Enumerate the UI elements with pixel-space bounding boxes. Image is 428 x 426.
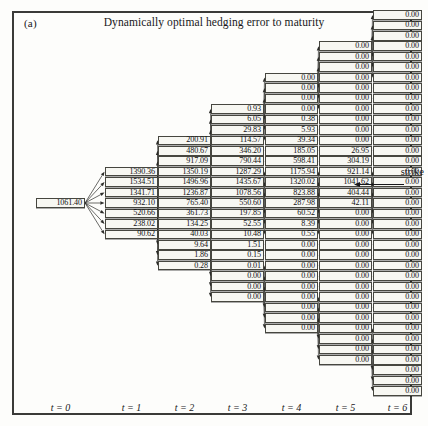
lattice-node: 0.00	[319, 52, 372, 62]
lattice-node: 0.00	[265, 282, 318, 292]
lattice-node: 0.00	[373, 31, 422, 41]
lattice-node: 1287.29	[211, 167, 264, 177]
lattice-node: 0.00	[265, 83, 318, 93]
lattice-node: 9.64	[158, 240, 211, 250]
time-axis-label-0: t = 0	[51, 402, 71, 413]
lattice-node: 0.00	[319, 355, 372, 365]
lattice-node: 0.00	[373, 355, 422, 365]
lattice-node: 0.00	[373, 324, 422, 334]
lattice-node: 1061.40	[36, 198, 85, 208]
lattice-node: 1.51	[211, 240, 264, 250]
lattice-node: 0.00	[319, 240, 372, 250]
lattice-node: 0.00	[373, 198, 422, 208]
lattice-node: 480.67	[158, 146, 211, 156]
lattice-node: 0.00	[265, 250, 318, 260]
lattice-node: 0.00	[319, 115, 372, 125]
lattice-node: 0.00	[319, 136, 372, 146]
lattice-node: 1078.56	[211, 188, 264, 198]
time-axis-label-2: t = 2	[175, 402, 195, 413]
lattice-node: 1.86	[158, 250, 211, 260]
time-axis-label-1: t = 1	[122, 402, 142, 413]
lattice-node: 0.00	[373, 345, 422, 355]
time-axis-label-3: t = 3	[228, 402, 248, 413]
lattice-node: 0.00	[319, 271, 372, 281]
lattice-node: 0.00	[373, 115, 422, 125]
lattice-node: 42.11	[319, 198, 372, 208]
lattice-node: 0.00	[373, 313, 422, 323]
lattice-node: 52.55	[211, 219, 264, 229]
lattice-node: 0.00	[373, 94, 422, 104]
lattice-node: 0.00	[319, 83, 372, 93]
lattice-node: 1341.71	[105, 188, 158, 198]
lattice-node: 0.00	[319, 303, 372, 313]
lattice-node: 0.00	[373, 21, 422, 31]
lattice-node: 598.41	[265, 156, 318, 166]
lattice-node: 0.00	[373, 41, 422, 51]
lattice-node: 1496.96	[158, 177, 211, 187]
lattice-node: 0.00	[319, 324, 372, 334]
lattice-node: 0.00	[373, 73, 422, 83]
lattice-node: 0.00	[319, 94, 372, 104]
time-axis-label-6: t = 6	[388, 402, 408, 413]
lattice-node: 0.00	[319, 62, 372, 72]
lattice-node: 0.00	[265, 73, 318, 83]
lattice-node: 304.19	[319, 156, 372, 166]
lattice-node: 1320.02	[265, 177, 318, 187]
lattice-node: 1390.36	[105, 167, 158, 177]
lattice-node: 29.83	[211, 125, 264, 135]
lattice-node: 197.85	[211, 209, 264, 219]
lattice-node: 0.01	[211, 261, 264, 271]
lattice-node: 0.00	[373, 334, 422, 344]
lattice-node: 0.00	[319, 250, 372, 260]
lattice-node: 0.15	[211, 250, 264, 260]
lattice-node: 0.00	[373, 282, 422, 292]
lattice-node: 0.00	[373, 250, 422, 260]
lattice-node: 0.00	[373, 365, 422, 375]
lattice-node: 0.00	[373, 10, 422, 20]
lattice-node: 0.00	[373, 125, 422, 135]
lattice-node: 520.66	[105, 209, 158, 219]
lattice-node: 0.00	[319, 345, 372, 355]
lattice-node: 0.00	[373, 303, 422, 313]
lattice-node: 0.55	[265, 230, 318, 240]
lattice-node: 0.00	[319, 41, 372, 51]
lattice-node: 917.09	[158, 156, 211, 166]
lattice-node: 0.00	[373, 219, 422, 229]
lattice-node: 0.00	[265, 240, 318, 250]
lattice-node: 114.57	[211, 136, 264, 146]
lattice-node: 1175.94	[265, 167, 318, 177]
lattice-node: 26.95	[319, 146, 372, 156]
lattice-node: 0.00	[319, 334, 372, 344]
lattice-node: 932.10	[105, 198, 158, 208]
lattice-node: 0.00	[211, 292, 264, 302]
lattice-node: 200.91	[158, 136, 211, 146]
lattice-node: 0.00	[373, 136, 422, 146]
lattice-node: 0.00	[319, 125, 372, 135]
lattice-node: 0.00	[373, 209, 422, 219]
lattice-node: 1534.51	[105, 177, 158, 187]
lattice-node: 287.98	[265, 198, 318, 208]
lattice-node: 0.00	[265, 292, 318, 302]
lattice-node: 0.00	[319, 73, 372, 83]
lattice-node: 0.00	[373, 230, 422, 240]
lattice-node: 0.00	[319, 292, 372, 302]
lattice-node: 0.00	[373, 240, 422, 250]
lattice-node: 0.00	[319, 230, 372, 240]
lattice-node: 0.00	[265, 271, 318, 281]
lattice-node: 0.00	[373, 104, 422, 114]
lattice-node: 0.00	[265, 94, 318, 104]
lattice-node: 0.00	[319, 261, 372, 271]
lattice-node: 765.40	[158, 198, 211, 208]
lattice-node: 0.00	[373, 376, 422, 386]
time-axis-label-4: t = 4	[282, 402, 302, 413]
left-arrow-icon	[354, 180, 404, 189]
lattice-node: 0.00	[373, 386, 422, 396]
lattice-node: 550.60	[211, 198, 264, 208]
lattice-node: 0.00	[319, 219, 372, 229]
figure-panel: (a) Dynamically optimal hedging error to…	[0, 0, 428, 426]
lattice-node: 0.00	[373, 52, 422, 62]
binomial-lattice: 1061.401390.361534.511341.71932.10520.66…	[12, 11, 412, 415]
lattice-node: 0.93	[211, 104, 264, 114]
lattice-node: 185.05	[265, 146, 318, 156]
strike-annotation: strike	[352, 166, 424, 194]
